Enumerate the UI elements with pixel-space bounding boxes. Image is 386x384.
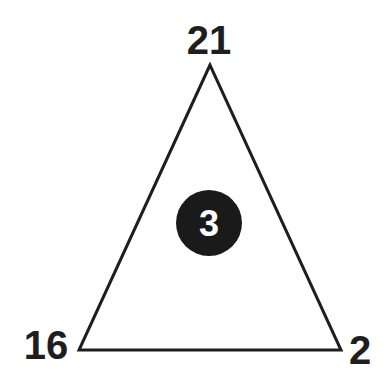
vertex-bottom-left-value: 16 [24,325,69,365]
vertex-bottom-right-value: 2 [349,330,371,370]
center-value: 3 [199,206,219,242]
vertex-top-value: 21 [187,20,232,60]
triangle-diagram: 21 16 2 3 [0,0,386,384]
